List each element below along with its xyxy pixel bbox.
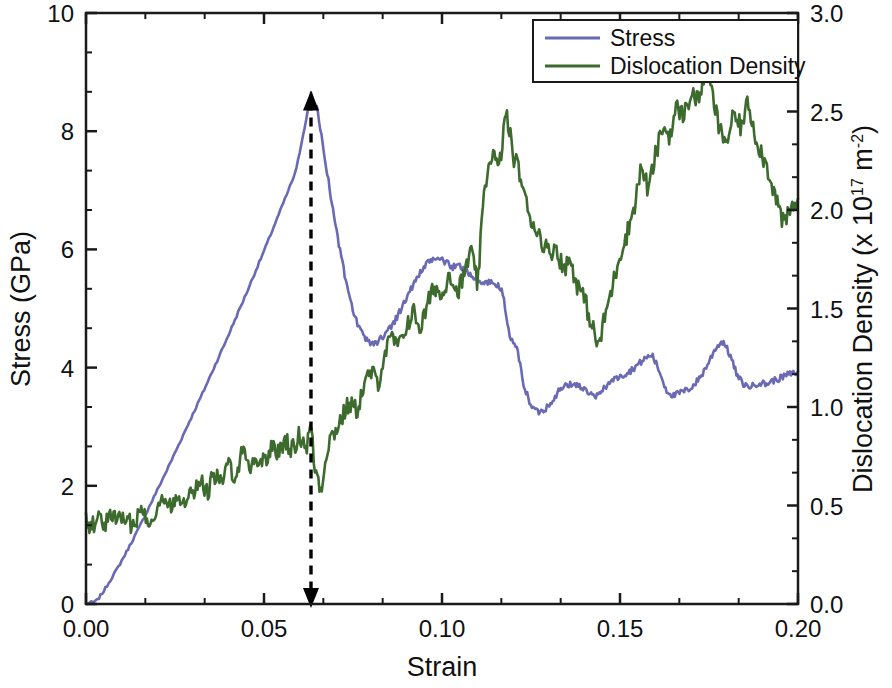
y-axis-left-tick-label: 8 xyxy=(61,118,74,145)
chart-canvas: 0.000.050.100.150.2002468100.00.51.01.52… xyxy=(0,0,892,688)
legend-label-dislocation-density: Dislocation Density xyxy=(610,53,806,79)
y-axis-right-tick-label: 1.5 xyxy=(810,296,843,323)
y-axis-right-tick-label: 3.0 xyxy=(810,0,843,27)
y-axis-left-title: Stress (GPa) xyxy=(6,231,36,387)
stress-dislocation-density-figure: 0.000.050.100.150.2002468100.00.51.01.52… xyxy=(0,0,892,688)
y-axis-right-exponent-minus2: -2 xyxy=(849,134,866,148)
y-axis-left-tick-label: 10 xyxy=(47,0,74,27)
y-axis-right-tick-label: 0.0 xyxy=(810,591,843,618)
y-axis-left-tick-label: 6 xyxy=(61,236,74,263)
y-axis-left-tick-label: 0 xyxy=(61,591,74,618)
x-axis-tick-label: 0.20 xyxy=(775,615,822,642)
y-axis-right-tick-label: 2.5 xyxy=(810,99,843,126)
y-axis-left-tick-label: 4 xyxy=(61,355,74,382)
figure-background xyxy=(0,0,892,688)
y-axis-right-tick-label: 2.0 xyxy=(810,197,843,224)
x-axis-tick-label: 0.05 xyxy=(241,615,288,642)
x-axis-title: Strain xyxy=(407,652,478,682)
y-axis-right-title-mid: m xyxy=(848,148,878,178)
y-axis-right-title-pre: Dislocation Density (x 10 xyxy=(848,196,878,493)
y-axis-right-title-post: ) xyxy=(848,125,878,134)
legend-label-stress: Stress xyxy=(610,25,675,51)
x-axis-tick-label: 0.15 xyxy=(597,615,644,642)
y-axis-left-tick-label: 2 xyxy=(61,473,74,500)
y-axis-right-tick-label: 1.0 xyxy=(810,394,843,421)
legend[interactable]: Stress Dislocation Density xyxy=(533,20,806,82)
x-axis-tick-label: 0.10 xyxy=(419,615,466,642)
y-axis-right-tick-label: 0.5 xyxy=(810,493,843,520)
x-axis-tick-label: 0.00 xyxy=(63,615,110,642)
y-axis-right-exponent-17: 17 xyxy=(849,178,866,196)
